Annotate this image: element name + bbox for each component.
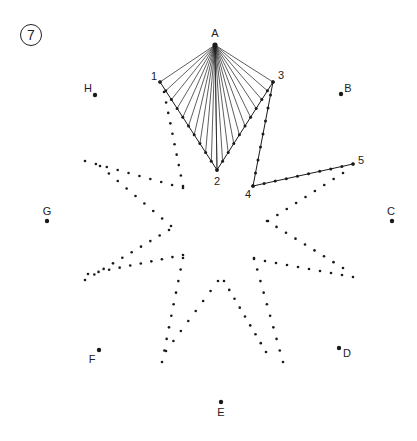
- guide-dot: [175, 153, 178, 156]
- guide-dot: [138, 175, 141, 178]
- guide-dot: [99, 165, 102, 168]
- guide-dot: [249, 324, 252, 327]
- guide-dot: [266, 303, 269, 306]
- anchor-label-f: F: [89, 354, 96, 365]
- guide-dot: [264, 120, 267, 123]
- anchor-point-f: [97, 348, 101, 352]
- guide-dot: [165, 338, 168, 341]
- guide-dot: [265, 351, 268, 354]
- guide-dot: [112, 262, 115, 265]
- guide-dot: [95, 163, 98, 166]
- guide-dot: [84, 160, 87, 163]
- guide-dot: [323, 184, 326, 187]
- guide-dot: [198, 142, 201, 145]
- guide-dot: [332, 261, 335, 264]
- guide-dot: [318, 170, 321, 173]
- guide-dot: [209, 290, 212, 293]
- guide-dot: [118, 266, 121, 269]
- guide-dot: [116, 169, 119, 172]
- guide-dot: [193, 133, 196, 136]
- guide-dot: [238, 133, 241, 136]
- guide-dot: [139, 262, 142, 265]
- guide-dot: [269, 314, 272, 317]
- guide-dot: [249, 116, 252, 119]
- anchor-point-b: [339, 92, 343, 96]
- anchor-label-e: E: [217, 407, 224, 418]
- guide-dot: [108, 268, 111, 271]
- guide-dot: [263, 182, 266, 185]
- guide-dot: [173, 143, 176, 146]
- anchor-label-d: D: [343, 348, 351, 359]
- guide-dot: [330, 272, 333, 275]
- guide-dot: [259, 280, 262, 283]
- anchor-label-h: H: [84, 83, 92, 94]
- guide-dot: [167, 112, 170, 115]
- guide-dot: [130, 251, 133, 254]
- guide-dot: [168, 326, 171, 329]
- guide-dot: [264, 260, 267, 263]
- guide-dot: [314, 190, 317, 193]
- numbered-label-3: 3: [278, 70, 284, 81]
- numbered-label-4: 4: [245, 189, 251, 200]
- guide-dot: [275, 262, 278, 265]
- guide-dot: [285, 231, 288, 234]
- anchor-point-e: [219, 400, 223, 404]
- guide-dot: [267, 107, 270, 110]
- solid-line: [253, 164, 353, 186]
- solid-string-lines: [159, 81, 355, 188]
- guide-dot: [175, 291, 178, 294]
- guide-dot: [170, 98, 173, 101]
- guide-dot: [238, 306, 241, 309]
- string-line: [177, 45, 215, 108]
- guide-dot: [342, 172, 345, 175]
- guide-dot: [254, 333, 257, 336]
- numbered-label-1: 1: [151, 71, 157, 82]
- guide-dot: [165, 350, 168, 353]
- guide-dot: [262, 291, 265, 294]
- guide-dot: [232, 142, 235, 145]
- anchor-point-c: [390, 219, 394, 223]
- guide-dot: [352, 276, 355, 279]
- guide-dot: [313, 249, 316, 252]
- guide-dot: [187, 320, 190, 323]
- guide-dot: [332, 178, 335, 181]
- guide-dot: [304, 196, 307, 199]
- guide-dot: [233, 297, 236, 300]
- guide-dot: [282, 361, 285, 364]
- guide-dot: [177, 280, 180, 283]
- guide-dot: [223, 280, 226, 283]
- guide-dot: [108, 172, 111, 175]
- string-art-diagram: [0, 0, 417, 441]
- guide-dot: [168, 229, 171, 232]
- guide-dot: [134, 195, 137, 198]
- guide-dot: [228, 289, 231, 292]
- numbered-label-5: 5: [358, 155, 364, 166]
- guide-dot: [161, 258, 164, 261]
- guide-dot: [143, 202, 146, 205]
- guide-dot: [286, 264, 289, 267]
- guide-dot: [163, 91, 166, 94]
- guide-dot: [161, 217, 164, 220]
- guide-dot: [285, 177, 288, 180]
- numbered-label-2: 2: [214, 176, 220, 187]
- guide-dot: [97, 271, 100, 274]
- guide-dot: [105, 166, 108, 169]
- guide-dot: [161, 361, 164, 364]
- guide-dot: [275, 338, 278, 341]
- guide-dot: [176, 107, 179, 110]
- anchor-point-h: [93, 93, 97, 97]
- guide-dot: [171, 184, 174, 187]
- guide-dot: [340, 165, 343, 168]
- guide-dot: [297, 266, 300, 269]
- guide-dot: [202, 300, 205, 303]
- guide-dot: [180, 174, 183, 177]
- guide-dot: [253, 258, 256, 261]
- guide-dot: [204, 151, 207, 154]
- guide-dot: [210, 160, 213, 163]
- guide-dot: [274, 180, 277, 183]
- guide-dot: [254, 172, 257, 175]
- guide-dot: [269, 94, 272, 97]
- anchor-label-c: C: [387, 206, 395, 217]
- guide-dot: [129, 264, 132, 267]
- guide-dot: [329, 167, 332, 170]
